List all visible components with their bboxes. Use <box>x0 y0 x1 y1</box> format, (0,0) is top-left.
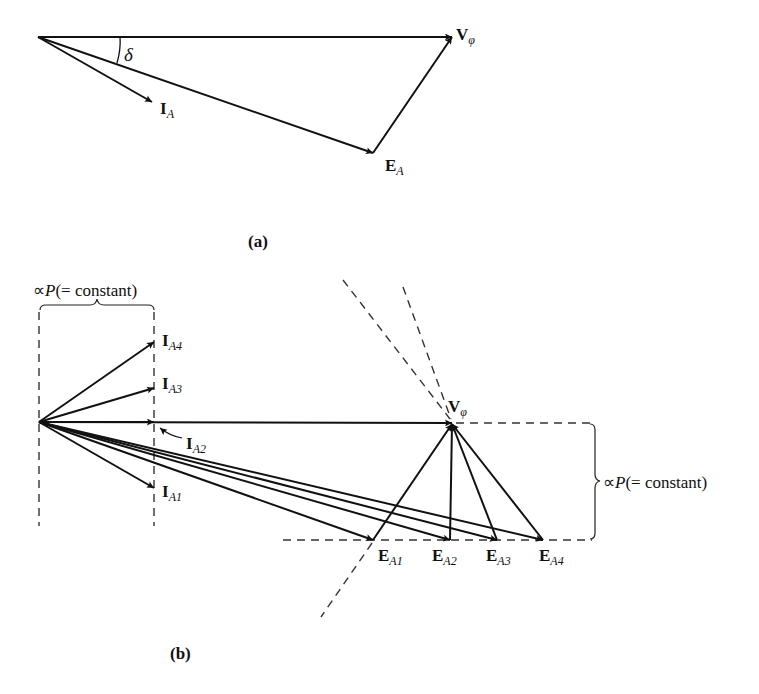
jxs-ia2-phasor <box>450 424 452 540</box>
delta-angle-arc <box>117 37 120 63</box>
right-brace <box>590 424 600 539</box>
ia4-label: IA4 <box>162 332 182 352</box>
ia1-phasor <box>39 422 154 488</box>
ia-label: IA <box>160 100 174 120</box>
v-phi-label-b: Vφ <box>448 398 467 418</box>
ea3-label: EA3 <box>486 547 511 567</box>
ea2-label: EA2 <box>432 547 457 567</box>
phasor-diagram <box>0 0 759 694</box>
ia2-pointer-arrow <box>160 428 182 438</box>
jxs-ia1-phasor <box>373 424 452 540</box>
jxs-ia-phasor <box>373 37 452 153</box>
ea3-phasor <box>39 422 497 540</box>
ea1-extension-dashed-line <box>321 543 372 617</box>
ea2-phasor <box>39 422 450 540</box>
ia3-label: IA3 <box>162 375 182 395</box>
ea1-phasor <box>39 422 373 540</box>
ea4-label: EA4 <box>539 547 564 567</box>
ea1-label: EA1 <box>378 547 403 567</box>
jxs-ia3-phasor <box>452 424 497 540</box>
v-phi-phasor-b <box>39 422 452 423</box>
ea-phasor <box>38 37 373 153</box>
ia1-label: IA1 <box>162 483 182 503</box>
caption-a: (a) <box>248 232 268 252</box>
ia4-phasor <box>39 342 154 422</box>
upper-dashed-line-1 <box>343 280 450 419</box>
ia3-phasor <box>39 388 154 422</box>
delta-label: δ <box>124 45 133 64</box>
ia2-label: IA2 <box>186 435 206 455</box>
part-b-phasors <box>39 342 543 540</box>
caption-b: (b) <box>170 644 191 664</box>
part-a-diagram <box>38 37 452 153</box>
ea-label: EA <box>385 157 404 177</box>
top-brace-label: ∝P(= constant) <box>33 280 137 301</box>
ea4-phasor <box>39 422 543 540</box>
right-brace-label: ∝P(= constant) <box>603 472 707 493</box>
v-phi-label: Vφ <box>456 26 475 46</box>
upper-dashed-line-2 <box>403 287 451 419</box>
